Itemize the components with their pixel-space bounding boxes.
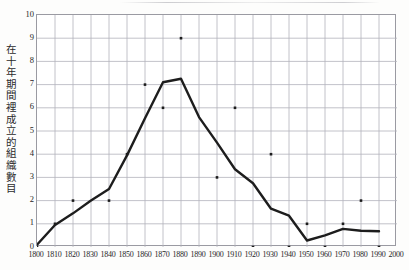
chart-container: 在十年期間裡成立的組織數目 012345678910 1800181018201… <box>0 0 409 270</box>
y-tick-5: 5 <box>18 125 34 135</box>
gridlines <box>37 15 397 247</box>
y-tick-4: 4 <box>18 148 34 158</box>
y-tick-1: 1 <box>18 217 34 227</box>
y-tick-7: 7 <box>18 78 34 88</box>
y-tick-6: 6 <box>18 101 34 111</box>
y-tick-3: 3 <box>18 171 34 181</box>
y-tick-2: 2 <box>18 194 34 204</box>
x-tick-2000: 2000 <box>384 250 408 259</box>
scan-artifact-line <box>120 2 380 3</box>
plot-svg <box>37 15 397 247</box>
data-point-series <box>37 37 380 247</box>
y-tick-9: 9 <box>18 32 34 42</box>
y-tick-10: 10 <box>16 9 34 19</box>
y-tick-8: 8 <box>18 55 34 65</box>
plot-area <box>36 14 396 246</box>
trend-line-series <box>37 79 379 245</box>
y-tick-0: 0 <box>18 241 34 251</box>
